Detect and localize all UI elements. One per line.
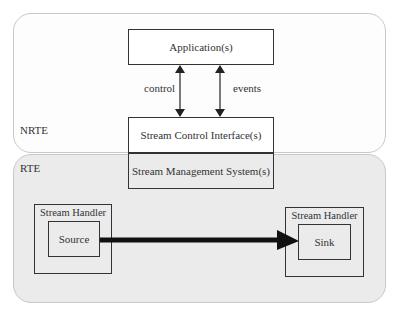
sink-handler-label: Stream Handler xyxy=(286,210,363,221)
events-label: events xyxy=(233,82,261,94)
stream-control-interface-box: Stream Control Interface(s) xyxy=(128,117,274,153)
nrte-label: NRTE xyxy=(20,124,48,136)
sink-stream-handler: Stream Handler Sink xyxy=(285,207,364,277)
sink-box: Sink xyxy=(298,224,351,260)
rte-label: RTE xyxy=(20,162,40,174)
stream-management-system-box: Stream Management System(s) xyxy=(128,153,274,189)
source-handler-label: Stream Handler xyxy=(35,207,111,218)
application-box: Application(s) xyxy=(128,29,274,65)
control-label: control xyxy=(144,82,175,94)
source-stream-handler: Stream Handler Source xyxy=(34,204,112,274)
source-box: Source xyxy=(48,221,100,257)
